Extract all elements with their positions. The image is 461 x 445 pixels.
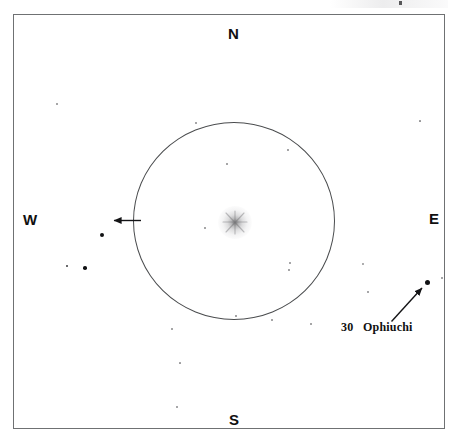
scan-artifact-speck — [399, 1, 402, 5]
star-label-30-ophiuchi: 30 Ophiuchi — [341, 320, 413, 335]
field-star — [288, 269, 289, 270]
star-chart-figure: N S W E 30 Ophiuchi — [0, 0, 461, 445]
field-star — [367, 291, 369, 293]
field-star — [226, 163, 228, 165]
field-star — [195, 122, 197, 124]
field-star — [235, 315, 236, 316]
field-star — [83, 266, 87, 270]
field-star — [289, 262, 291, 264]
field-star — [204, 227, 205, 228]
star-30-ophiuchi — [425, 280, 430, 285]
cardinal-label-north: N — [228, 26, 239, 41]
cardinal-label-west: W — [23, 212, 37, 227]
field-star — [310, 323, 311, 324]
scan-smudge — [330, 0, 448, 8]
field-star — [287, 149, 288, 150]
field-star — [441, 277, 442, 278]
field-star — [271, 319, 272, 320]
cardinal-label-south: S — [229, 412, 239, 427]
field-star — [362, 263, 364, 265]
field-star — [56, 103, 58, 105]
field-star — [176, 406, 178, 408]
field-star — [171, 328, 173, 330]
cardinal-label-east: E — [429, 211, 439, 226]
comet-spikes-icon — [218, 206, 252, 239]
field-star — [419, 120, 420, 121]
field-star — [179, 362, 181, 364]
